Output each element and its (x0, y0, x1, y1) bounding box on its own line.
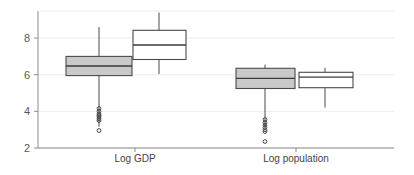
x-tick-label-log-population: Log population (263, 153, 329, 164)
y-tick-label-6: 6 (24, 69, 30, 81)
boxplot-figure: 2 4 6 8 (0, 0, 414, 175)
x-tick-label-log-gdp: Log GDP (114, 153, 155, 164)
y-tick-label-4: 4 (24, 105, 30, 117)
boxplot-canvas: 2 4 6 8 (0, 0, 414, 175)
y-tick-label-2: 2 (24, 142, 30, 154)
box-iqr (299, 72, 353, 87)
y-tick-label-8: 8 (24, 32, 30, 44)
